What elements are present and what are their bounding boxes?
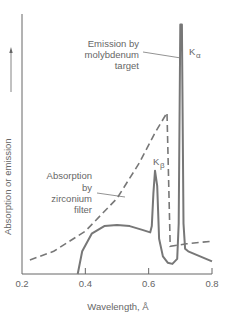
label-subscript: β bbox=[160, 161, 165, 170]
chart: 0.20.40.60.8 Wavelength, Å Absorption or… bbox=[0, 0, 228, 314]
annotation-emission: Emission by molybdenum target bbox=[85, 38, 181, 71]
annotation-absorption: Absorption by zirconium filter bbox=[47, 170, 125, 215]
x-tick-label: 0.6 bbox=[142, 278, 155, 289]
label-k-alpha: K α bbox=[189, 46, 201, 60]
series-emission-molybdenum bbox=[78, 25, 212, 275]
x-tick-label: 0.2 bbox=[15, 278, 28, 289]
label-k-beta: K β bbox=[153, 156, 165, 170]
x-tick-label: 0.8 bbox=[205, 278, 218, 289]
label-subscript: α bbox=[196, 51, 201, 60]
y-axis-label: Absorption or emission bbox=[2, 138, 13, 235]
annotation-leader bbox=[143, 52, 181, 58]
annotation-line: Absorption bbox=[47, 170, 92, 181]
annotation-line: filter bbox=[74, 204, 92, 215]
annotation-line: zirconium bbox=[51, 193, 92, 204]
annotation-line: target bbox=[115, 60, 140, 71]
annotation-line: molybdenum bbox=[85, 49, 139, 60]
annotation-line: by bbox=[82, 182, 92, 193]
label-k: K bbox=[153, 156, 160, 167]
annotation-line: Emission by bbox=[88, 38, 139, 49]
x-tick-label: 0.4 bbox=[79, 278, 92, 289]
label-k: K bbox=[189, 46, 196, 57]
x-axis-label: Wavelength, Å bbox=[87, 301, 149, 312]
y-axis-arrow-icon bbox=[9, 47, 12, 53]
